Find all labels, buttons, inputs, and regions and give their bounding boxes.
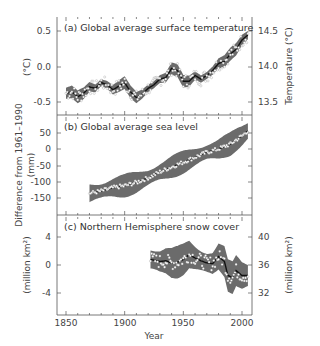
panel-c-ytick-right: 32: [258, 288, 269, 298]
annual-point: [181, 78, 183, 80]
annual-point: [210, 151, 212, 153]
annual-point: [107, 84, 109, 86]
annual-point: [95, 80, 97, 82]
annual-point: [242, 44, 244, 46]
annual-point: [152, 79, 154, 81]
annual-point: [235, 46, 237, 48]
annual-point: [207, 80, 209, 82]
annual-point: [202, 268, 204, 270]
annual-point: [159, 255, 161, 257]
annual-point: [92, 80, 94, 82]
panel-a-ytick-right: 13.5: [258, 97, 278, 107]
annual-point: [166, 262, 168, 264]
annual-point: [185, 257, 187, 259]
annual-point: [237, 274, 239, 276]
annual-point: [176, 63, 178, 65]
annual-point: [223, 66, 225, 68]
uncertainty-band: [90, 123, 248, 202]
annual-point: [233, 274, 235, 276]
annual-point: [131, 98, 133, 100]
annual-point: [164, 266, 166, 268]
annual-point: [68, 95, 70, 97]
annual-point: [210, 77, 212, 79]
annual-point: [122, 84, 124, 86]
annual-point: [118, 80, 120, 82]
annual-point: [149, 177, 151, 179]
annual-point: [193, 70, 195, 72]
annual-point: [205, 80, 207, 82]
panel-a-ytick: 0.5: [37, 26, 51, 36]
annual-point: [125, 81, 127, 83]
annual-point: [113, 90, 115, 92]
annual-point: [128, 90, 130, 92]
panel-b-ytick: 0: [45, 144, 51, 154]
annual-point: [192, 74, 194, 76]
annual-point: [185, 75, 187, 77]
annual-point: [93, 92, 95, 94]
annual-point: [243, 280, 245, 282]
annual-point: [188, 85, 190, 87]
annual-point: [153, 253, 155, 255]
annual-point: [230, 279, 232, 281]
annual-point: [158, 172, 160, 174]
annual-point: [221, 67, 223, 69]
xtick-label: 1850: [55, 318, 78, 328]
annual-point: [236, 276, 238, 278]
annual-point: [219, 250, 221, 252]
panel-a-plot: [65, 31, 249, 103]
annual-point: [175, 75, 177, 77]
annual-point: [140, 95, 142, 97]
annual-point: [147, 84, 149, 86]
annual-point: [152, 176, 154, 178]
annual-point: [79, 92, 81, 94]
panel-c-ylabel-right: (million km²): [284, 236, 294, 293]
annual-point: [111, 84, 113, 86]
annual-point: [110, 92, 112, 94]
annual-point: [134, 93, 136, 95]
annual-point: [190, 262, 192, 264]
annual-point: [77, 99, 79, 101]
annual-point: [99, 82, 101, 84]
annual-point: [227, 145, 229, 147]
annual-point: [236, 50, 238, 52]
annual-point: [129, 182, 131, 184]
annual-point: [210, 269, 212, 271]
annual-point: [115, 80, 117, 82]
annual-point: [240, 35, 242, 37]
annual-point: [187, 161, 189, 163]
annual-point: [100, 79, 102, 81]
annual-point: [83, 96, 85, 98]
annual-point: [71, 91, 73, 93]
annual-point: [162, 170, 164, 172]
panel-c-plot: [149, 241, 249, 294]
annual-point: [120, 87, 122, 89]
annual-point: [124, 78, 126, 80]
annual-point: [146, 92, 148, 94]
panel-c-ylabel: (million km²): [22, 236, 32, 293]
annual-point: [227, 63, 229, 65]
panel-c-title: (c) Northern Hemisphere snow cover: [64, 221, 239, 232]
annual-point: [149, 260, 151, 262]
annual-point: [232, 53, 234, 55]
xtick-label: 1950: [172, 318, 195, 328]
annual-point: [151, 253, 153, 255]
panel-a-ylabel-right: Temperature (°C): [284, 27, 294, 106]
annual-point: [168, 74, 170, 76]
annual-point: [208, 76, 210, 78]
annual-point: [237, 138, 239, 140]
annual-point: [169, 63, 171, 65]
panel-b-ytick: 50: [40, 128, 52, 138]
annual-point: [215, 61, 217, 63]
annual-point: [67, 97, 69, 99]
annual-point: [152, 255, 154, 257]
panel-a-ytick: 0.0: [37, 62, 52, 72]
annual-point: [194, 263, 196, 265]
annual-point: [206, 75, 208, 77]
annual-point: [141, 88, 143, 90]
annual-point: [243, 41, 245, 43]
annual-point: [164, 81, 166, 83]
annual-point: [227, 280, 229, 282]
panel-a-ytick: -0.5: [33, 97, 51, 107]
annual-point: [214, 147, 216, 149]
annual-point: [148, 92, 150, 94]
